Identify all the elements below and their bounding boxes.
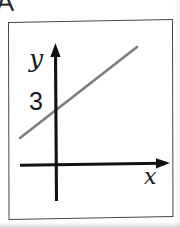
- x-axis-arrowhead: [156, 158, 170, 168]
- scanned-figure: A y 3 x: [0, 0, 180, 228]
- x-axis-label: x: [144, 166, 156, 188]
- y-axis-arrowhead: [50, 43, 60, 57]
- axes-and-line-graphic: [0, 0, 180, 228]
- coordinate-plot: y 3 x: [0, 0, 180, 228]
- x-axis-line: [20, 163, 162, 165]
- y-intercept-label: 3: [29, 89, 43, 114]
- y-axis-line: [56, 52, 57, 201]
- y-axis-label: y: [29, 46, 43, 71]
